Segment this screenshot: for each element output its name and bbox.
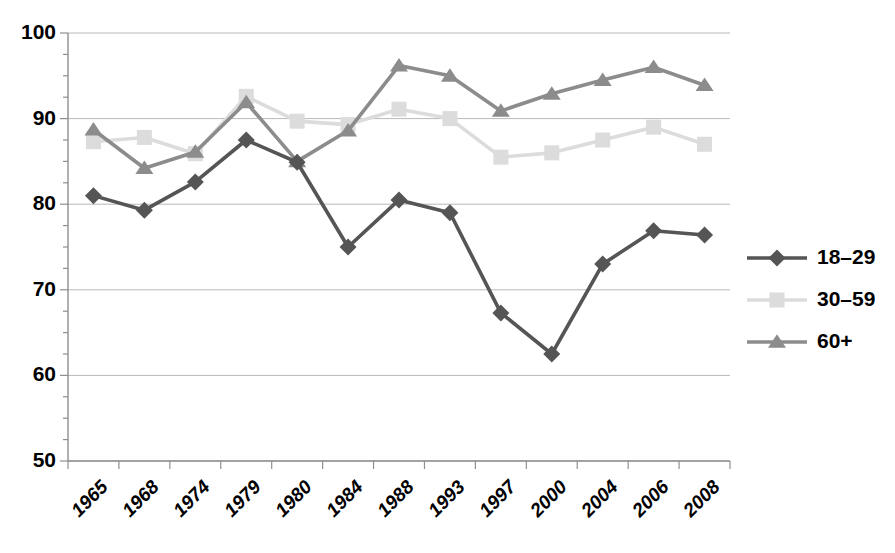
legend-item: 60+ <box>745 327 890 369</box>
marker-square <box>442 111 457 126</box>
legend-item: 18–29 <box>745 243 890 285</box>
y-axis-tick-label: 50 <box>10 448 56 472</box>
marker-square <box>770 293 785 308</box>
marker-square <box>544 145 559 160</box>
legend-label: 30–59 <box>817 287 875 311</box>
marker-diamond <box>696 227 713 244</box>
legend-marker <box>745 327 809 357</box>
line-chart: 1009080706050 19651968197419791980198419… <box>0 0 895 553</box>
marker-triangle <box>84 122 102 136</box>
legend-label: 60+ <box>817 329 853 353</box>
x-axis-ticks <box>68 461 730 469</box>
legend-marker <box>745 243 809 273</box>
y-axis-tick-label: 70 <box>10 277 56 301</box>
marker-square <box>290 114 305 129</box>
marker-triangle <box>390 58 408 72</box>
marker-diamond <box>769 250 786 267</box>
series-line <box>85 132 713 363</box>
marker-diamond <box>441 204 458 221</box>
marker-square <box>137 130 152 145</box>
marker-diamond <box>85 187 102 204</box>
marker-square <box>86 134 101 149</box>
data-series <box>84 58 713 363</box>
marker-square <box>595 133 610 148</box>
y-axis-tick-label: 80 <box>10 191 56 215</box>
y-axis-tick-label: 100 <box>10 20 56 44</box>
marker-square <box>697 137 712 152</box>
marker-square <box>646 120 661 135</box>
y-axis-tick-label: 60 <box>10 362 56 386</box>
series-line <box>86 89 712 165</box>
series-polyline <box>93 66 704 169</box>
marker-square <box>493 150 508 165</box>
legend-label: 18–29 <box>817 245 875 269</box>
chart-legend: 18–2930–5960+ <box>745 243 890 369</box>
y-axis-ticks <box>60 33 68 461</box>
legend-item: 30–59 <box>745 285 890 327</box>
marker-square <box>392 102 407 117</box>
legend-marker <box>745 285 809 315</box>
y-axis-tick-label: 90 <box>10 106 56 130</box>
series-polyline <box>93 140 704 354</box>
marker-triangle <box>645 60 663 73</box>
